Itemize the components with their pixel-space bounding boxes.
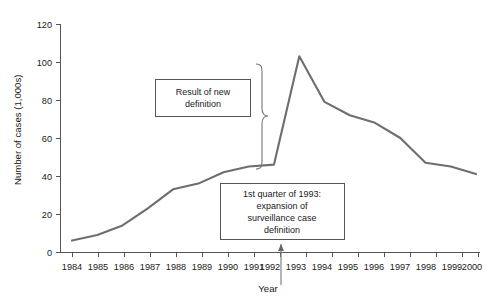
x-axis-tick-labels: 1984 1985 1986 1987 1988 1989 1990 1991 …	[62, 262, 482, 272]
x-tick-label: 2000	[462, 262, 482, 272]
annotation-first-quarter-1993: 1st quarter of 1993: expansion of survei…	[221, 184, 345, 240]
y-tick-label: 20	[42, 210, 52, 220]
x-tick-label: 1990	[218, 262, 238, 272]
x-axis-title: Year	[258, 283, 278, 294]
x-tick-label: 1998	[416, 262, 436, 272]
annotation-line: Result of new	[176, 87, 231, 97]
y-tick-label: 100	[37, 58, 52, 68]
chart-container: 0 20 40 60 80 100 120 Number of cases (1…	[0, 0, 487, 299]
x-axis-ticks	[73, 253, 479, 258]
y-tick-label: 60	[42, 134, 52, 144]
x-tick-label: 1997	[390, 262, 410, 272]
curly-brace-icon	[256, 64, 268, 169]
annotation-line: expansion of	[256, 201, 308, 211]
x-tick-label: 1984	[62, 262, 82, 272]
y-axis-title: Number of cases (1,000s)	[12, 75, 23, 185]
y-axis-ticks	[56, 25, 61, 253]
x-tick-label: 1994	[312, 262, 332, 272]
x-tick-label: 1995	[338, 262, 358, 272]
line-chart: 0 20 40 60 80 100 120 Number of cases (1…	[0, 0, 487, 299]
x-tick-label: 1987	[140, 262, 160, 272]
annotation-result-of-new-definition: Result of new definition	[156, 80, 251, 117]
y-tick-label: 40	[42, 172, 52, 182]
annotation-line: 1st quarter of 1993:	[243, 189, 321, 199]
x-tick-label: 1992	[260, 262, 280, 272]
x-tick-label: 1985	[88, 262, 108, 272]
x-tick-label: 1999	[442, 262, 462, 272]
y-tick-label: 120	[37, 20, 52, 30]
y-tick-label: 0	[47, 248, 52, 258]
x-tick-label: 1986	[114, 262, 134, 272]
y-tick-label: 80	[42, 96, 52, 106]
x-tick-label: 1989	[192, 262, 212, 272]
x-tick-label: 1988	[166, 262, 186, 272]
y-axis-tick-labels: 0 20 40 60 80 100 120	[37, 20, 52, 258]
x-tick-label: 1996	[364, 262, 384, 272]
annotation-line: surveillance case	[247, 213, 316, 223]
annotation-line: definition	[185, 99, 221, 109]
annotation-line: definition	[264, 225, 300, 235]
x-tick-label: 1993	[286, 262, 306, 272]
